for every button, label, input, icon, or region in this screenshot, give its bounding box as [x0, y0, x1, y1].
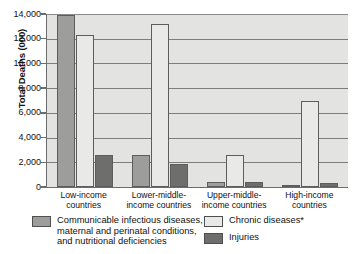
bar-chronic: [151, 24, 169, 187]
y-axis-tick-label: 14,000: [0, 10, 41, 19]
legend-label-line: Injuries: [229, 232, 259, 243]
x-axis-category-label-line: Low-income: [46, 190, 121, 200]
bar-injuries: [245, 182, 263, 187]
bar-injuries: [95, 155, 113, 187]
chart-legend: Communicable infectious diseases, matern…: [0, 213, 358, 254]
x-axis-category-label: Lower-middle-income countries: [121, 190, 196, 210]
x-axis-category-label-line: High-income: [272, 190, 347, 200]
x-axis-category-label-line: income countries: [121, 200, 196, 210]
legend-swatch-communicable-icon: [32, 216, 51, 227]
x-axis-category-label-line: Upper-middle-: [197, 190, 272, 200]
bar-chronic: [301, 101, 319, 187]
y-axis-tick-label: 12,000: [0, 34, 41, 43]
gridline: [47, 14, 348, 15]
legend-entry-communicable: Communicable infectious diseases, matern…: [32, 215, 203, 247]
y-axis-tick-label: 2,000: [0, 158, 41, 167]
legend-label-line: Chronic diseases*: [229, 215, 304, 226]
y-axis-tick-label: 6,000: [0, 108, 41, 117]
y-axis-tick-label: 10,000: [0, 59, 41, 68]
bar-communicable: [132, 155, 150, 187]
y-axis-tick-label: 4,000: [0, 133, 41, 142]
legend-label-line: maternal and perinatal conditions,: [57, 226, 203, 237]
x-axis-category-label: High-incomecountries: [272, 190, 347, 210]
legend-label-communicable: Communicable infectious diseases, matern…: [57, 215, 203, 247]
bar-injuries: [170, 164, 188, 187]
bar-communicable: [207, 182, 225, 187]
x-axis-category-label-line: Lower-middle-: [121, 190, 196, 200]
bar-injuries: [320, 183, 338, 187]
x-axis-category-label-line: income countries: [197, 200, 272, 210]
plot-area: [46, 14, 348, 188]
bar-chronic: [76, 35, 94, 187]
legend-label-line: Communicable infectious diseases,: [57, 215, 203, 226]
bar-chronic: [226, 155, 244, 187]
bar-communicable: [282, 185, 300, 187]
x-axis-category-label-line: countries: [46, 200, 121, 210]
x-axis-category-label: Upper-middle-income countries: [197, 190, 272, 210]
bar-communicable: [57, 15, 75, 187]
legend-label-chronic: Chronic diseases*: [229, 215, 304, 226]
y-axis-tick-label: 8,000: [0, 84, 41, 93]
legend-swatch-injuries-icon: [204, 233, 223, 244]
grouped-bar-chart: Total Deaths (000) 14,00012,00010,0008,0…: [0, 0, 358, 254]
legend-entry-injuries: Injuries: [204, 232, 259, 244]
legend-label-line: and nutritional deficiencies: [57, 236, 203, 247]
x-axis-category-label: Low-incomecountries: [46, 190, 121, 210]
legend-entry-chronic: Chronic diseases*: [204, 215, 304, 227]
legend-label-injuries: Injuries: [229, 232, 259, 243]
y-axis-tick-label: 0: [0, 183, 41, 192]
legend-swatch-chronic-icon: [204, 216, 223, 227]
x-axis-category-label-line: countries: [272, 200, 347, 210]
